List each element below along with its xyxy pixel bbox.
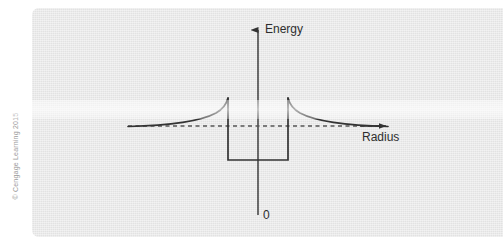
energy-axis-label: Energy	[265, 22, 303, 36]
figure-canvas: © Cengage Learning 2015 Energy Radius 0	[0, 0, 503, 237]
radius-axis-label: Radius	[362, 130, 399, 144]
origin-label: 0	[263, 208, 270, 222]
energy-radius-diagram	[0, 0, 503, 237]
right-potential-tail	[288, 98, 388, 127]
left-potential-tail	[128, 98, 228, 127]
